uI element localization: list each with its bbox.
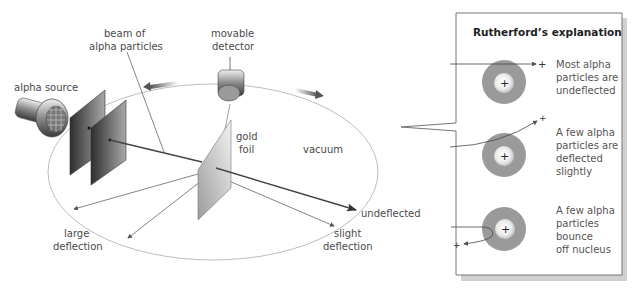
vacuum-label: vacuum [303, 144, 343, 155]
slight-deflection-label-line2: deflection [323, 241, 373, 252]
nucleus-charge: + [501, 223, 510, 236]
case-text-line: undeflected [556, 85, 616, 96]
alpha-charge: + [453, 240, 461, 250]
undeflected-ray [216, 168, 356, 210]
case-text-line: Most alpha [556, 59, 611, 70]
large-deflection-label-line1: large [64, 228, 89, 239]
case-text-line: particles are [556, 140, 618, 151]
case-text-line: particles [556, 218, 599, 229]
explanation-title: Rutherford’s explanation [473, 26, 622, 38]
detector-label-line1: movable [211, 28, 254, 39]
case-text-line: off nucleus [556, 244, 611, 255]
rutherford-diagram: alpha source beam of alpha particles mov… [0, 0, 634, 288]
slight-deflection-label-line1: slight [334, 228, 361, 239]
alpha-source-icon [14, 97, 68, 137]
slight-deflection-ray [215, 175, 334, 226]
movable-detector-icon [218, 57, 244, 101]
explanation-callout: Rutherford’s explanation + + Most alpha … [401, 13, 627, 281]
case-text-line: slightly [556, 166, 592, 177]
beam-label-line1: beam of [104, 28, 146, 39]
case-text-line: A few alpha [556, 205, 615, 216]
alpha-charge: + [538, 59, 546, 70]
large-deflection-label-line2: deflection [53, 241, 103, 252]
gold-label-line2: foil [239, 144, 254, 155]
case-text-line: deflected [556, 153, 603, 164]
case-text-line: A few alpha [556, 127, 615, 138]
nucleus-charge: + [500, 150, 509, 163]
nucleus-charge: + [500, 77, 509, 90]
large-deflection-ray-2 [128, 178, 205, 238]
undeflected-label: undeflected [361, 208, 421, 219]
case-text-line: particles are [556, 72, 618, 83]
gold-label-line1: gold [236, 131, 258, 142]
alpha-charge: + [539, 113, 547, 123]
detector-label-line2: detector [212, 41, 255, 52]
beam-label-line2: alpha particles [89, 41, 163, 52]
alpha-source-label: alpha source [14, 82, 78, 93]
gold-foil-icon [198, 120, 231, 220]
case-text-line: bounce [556, 231, 593, 242]
apparatus: alpha source beam of alpha particles mov… [14, 28, 421, 260]
collimator-plate-icon [70, 90, 126, 185]
